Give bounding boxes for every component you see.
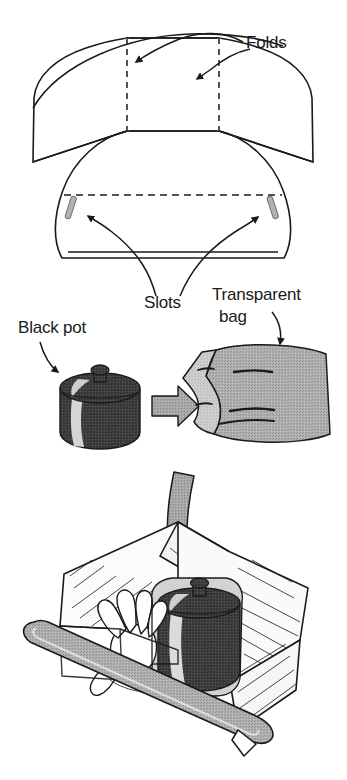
cooker-pot-knob-top [191,578,209,588]
panel-reflector-template: Folds Slots [33,33,313,312]
dome-left-edge [33,131,127,162]
slots-arrow-left[interactable] [88,216,156,296]
folds-arrow-right[interactable] [197,49,250,79]
transparent-bag-label-line2: bag [219,307,247,326]
solar-box-cooker [24,522,308,756]
transparent-bag-arrow[interactable] [272,312,281,344]
black-pot-label: Black pot [18,318,87,337]
reflector-left-wing [33,38,127,162]
bag-body [206,345,330,442]
slot-left [65,196,77,220]
folds-label: Folds [246,33,287,52]
dome-right-edge [219,131,313,162]
black-pot-arrow[interactable] [40,342,58,372]
transparent-bag-illustration [183,345,330,442]
bagged-pot-in-cooker [158,578,240,691]
transition-arrow [152,386,199,426]
pot-knob-top [91,365,109,375]
reflector-right-wing [219,38,313,162]
transparent-bag-label-line1: Transparent [212,285,301,304]
solar-cooker-instruction-figure: Folds Slots Black pot Transparent bag [0,0,347,780]
slot-right [267,196,279,220]
slots-label: Slots [144,293,181,312]
figure-canvas: Folds Slots Black pot Transparent bag [0,0,347,780]
black-pot-illustration [60,365,140,449]
panel-pot-into-cooker [24,472,308,756]
reflector-center-panel [127,38,219,131]
right-arrow-icon [152,386,199,426]
